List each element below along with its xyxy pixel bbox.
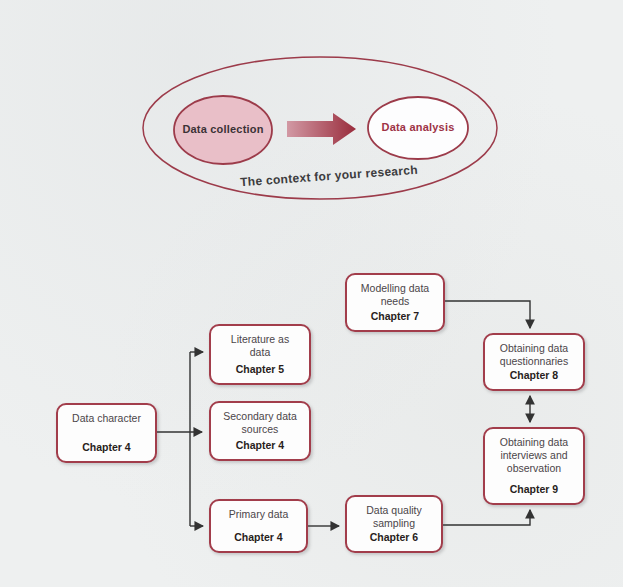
connector-quality-interviews — [443, 510, 530, 525]
data-analysis-label: Data analysis — [368, 121, 468, 134]
box-obtaining-data-interviews: Obtaining data interviews and observatio… — [483, 427, 585, 505]
box-obtaining-data-questionnaries: Obtaining data questionnaries Chapter 8 — [483, 333, 585, 391]
box-title: Literature as data — [231, 333, 289, 359]
box-title: Obtaining data interviews and observatio… — [500, 436, 568, 475]
box-title: Obtaining data questionnaries — [500, 342, 568, 368]
box-title: Secondary data sources — [223, 410, 297, 436]
box-chapter: Chapter 8 — [510, 369, 558, 381]
box-literature-as-data: Literature as data Chapter 5 — [209, 324, 311, 385]
box-chapter: Chapter 4 — [234, 531, 282, 543]
box-chapter: Chapter 5 — [236, 363, 284, 375]
box-chapter: Chapter 7 — [371, 310, 419, 322]
box-data-quality-sampling: Data quality sampling Chapter 6 — [345, 495, 443, 553]
collection-to-analysis-arrow — [287, 113, 356, 145]
box-chapter: Chapter 9 — [510, 483, 558, 495]
box-secondary-data-sources: Secondary data sources Chapter 4 — [209, 401, 311, 461]
box-title: Primary data — [229, 508, 289, 521]
box-modelling-data-needs: Modelling data needs Chapter 7 — [345, 273, 445, 332]
box-title: Data character — [72, 412, 141, 425]
data-collection-label: Data collection — [173, 123, 273, 136]
box-title: Data quality sampling — [366, 504, 421, 530]
box-data-character: Data character Chapter 4 — [56, 403, 157, 463]
box-chapter: Chapter 4 — [82, 441, 130, 453]
box-chapter: Chapter 4 — [236, 439, 284, 451]
box-title: Modelling data needs — [361, 282, 429, 308]
box-primary-data: Primary data Chapter 4 — [209, 499, 308, 553]
connector-modelling-questionnaires — [445, 301, 530, 328]
scanned-book-figure: Data collection Data analysis The contex… — [0, 0, 623, 587]
box-chapter: Chapter 6 — [370, 531, 418, 543]
